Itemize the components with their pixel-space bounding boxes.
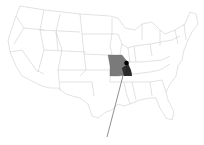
location-marker-icon [124,61,129,66]
us-map [0,0,204,145]
us-outline [8,6,198,120]
